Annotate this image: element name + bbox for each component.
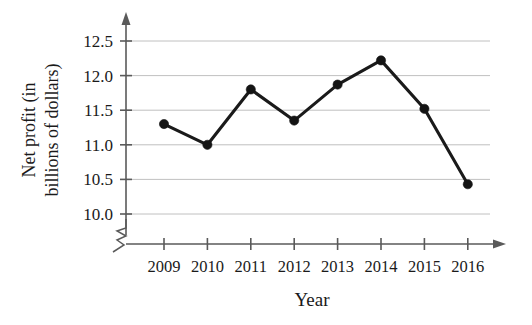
x-axis-tick-label: 2011 [235,257,267,276]
y-axis-tick-label: 11.0 [84,136,113,155]
line-chart: 10.010.511.011.512.012.5 200920102011201… [0,0,532,325]
y-axis-tick-labels: 10.010.511.011.512.012.5 [83,32,113,224]
y-axis-tick-label: 10.5 [83,170,113,189]
data-point [159,119,168,128]
data-point [420,104,429,113]
y-axis-title: Net profit (in billions of dollars) [19,64,63,197]
x-axis-title: Year [294,289,330,310]
data-line-path [164,60,468,184]
x-axis-tick-label: 2016 [451,257,484,276]
y-axis-tick-label: 12.0 [83,67,113,86]
y-axis-title-line1: Net profit (in [19,83,40,178]
y-axis-arrow-icon [122,12,131,25]
x-axis-tick-label: 2010 [191,257,224,276]
x-axis-tick-labels: 20092010201120122013201420152016 [148,257,485,276]
y-axis-tick-label: 12.5 [83,32,113,51]
y-axis-title-line2: billions of dollars) [42,64,63,197]
data-point [203,140,212,149]
x-axis-tick-label: 2012 [278,257,311,276]
data-point [463,180,472,189]
data-point [290,116,299,125]
x-axis-tick-label: 2014 [365,257,398,276]
x-axis-tick-label: 2013 [321,257,354,276]
axis-break-zigzag-icon [113,219,126,252]
chart-canvas: 10.010.511.011.512.012.5 200920102011201… [0,0,532,325]
data-point [246,85,255,94]
x-axis-arrow-icon [493,240,506,249]
data-point [376,56,385,65]
y-axis-tick-label: 10.0 [83,205,113,224]
y-axis-tick-label: 11.5 [84,101,113,120]
x-axis-tick-label: 2015 [408,257,441,276]
data-point [333,80,342,89]
x-axis-tick-label: 2009 [148,257,181,276]
